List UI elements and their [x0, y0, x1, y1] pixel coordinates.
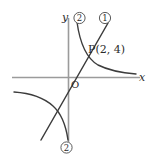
- callout-label-two-bottom: 2: [61, 144, 73, 153]
- math-figure: y x O P(2, 4) 2 1 2: [0, 0, 152, 158]
- origin-label: O: [71, 80, 79, 90]
- x-axis-label: x: [139, 72, 145, 83]
- y-axis-label: y: [62, 12, 68, 23]
- callout-label-two-top: 2: [74, 14, 86, 23]
- callout-label-one-top: 1: [99, 14, 111, 23]
- series-hyperbola-lower-branch: [14, 92, 68, 140]
- point-p-label: P(2, 4): [88, 44, 125, 55]
